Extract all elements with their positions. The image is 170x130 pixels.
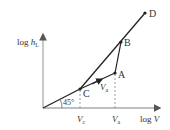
point-label-d: D [149, 8, 156, 19]
point-label-b: B [124, 37, 131, 48]
point-a [113, 71, 116, 74]
x-axis-label: log V [140, 114, 161, 124]
point-label-c: C [83, 88, 90, 99]
angle-arc [60, 99, 62, 108]
segment-label-va: Va [100, 82, 109, 93]
log-log-diagram: D B A C Va 45° log hL log V Vc Va [0, 0, 170, 130]
line-c-to-d [80, 13, 145, 89]
arrow-va [92, 80, 100, 84]
y-axis-label: log hL [17, 37, 39, 48]
tick-label-va: Va [112, 114, 121, 125]
point-c [78, 87, 81, 90]
point-d [143, 11, 146, 14]
point-label-a: A [118, 69, 126, 80]
point-b [119, 40, 122, 43]
angle-label: 45° [63, 98, 74, 107]
tick-label-vc: Vc [77, 114, 86, 125]
